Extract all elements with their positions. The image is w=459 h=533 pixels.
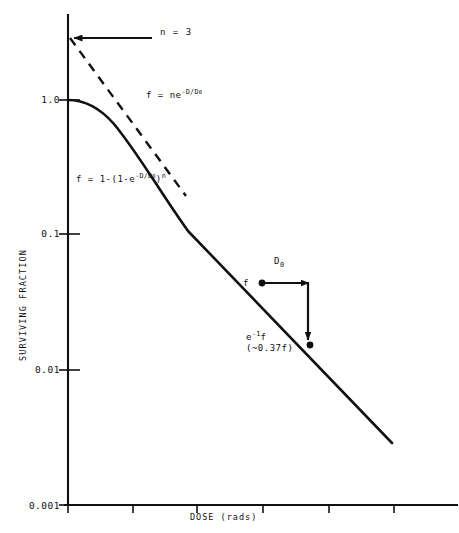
point-e-inverse-f-marker — [307, 342, 314, 349]
e-inv-f-approx: (~0.37f) — [246, 343, 293, 353]
annotation-point-f: f — [243, 278, 249, 289]
mt-eq-exponent: -D/D — [135, 172, 152, 180]
survival-curve-path — [68, 100, 392, 443]
plot-canvas — [0, 0, 459, 533]
exp-eq-lead: f = ne — [146, 90, 182, 100]
mt-eq-lead: f = 1-(1-e — [76, 174, 135, 184]
y-axis-title: SURVIVING FRACTION — [18, 235, 28, 375]
e-inv-f-base-post: f — [261, 332, 267, 342]
e-inv-f-exponent: -1 — [252, 330, 261, 338]
exp-eq-exponent-subscript: 0 — [199, 89, 202, 95]
mt-eq-power-n: n — [162, 172, 166, 180]
y-tick-label-0-001: 0.001 — [10, 500, 60, 512]
annotation-n-equals-3: n = 3 — [160, 27, 192, 38]
annotation-exponential-equation: f = ne-D/D0 — [146, 88, 202, 101]
annotation-multitarget-equation: f = 1-(1-e-D/D0)n — [76, 172, 166, 185]
survival-curve-figure: 1.0 0.1 0.01 0.001 SURVIVING FRACTION DO… — [0, 0, 459, 533]
exp-eq-exponent: -D/D — [182, 88, 199, 96]
annotation-point-e-inverse-f: e-1f (~0.37f) — [246, 330, 293, 355]
y-tick-label-1: 1.0 — [18, 94, 60, 106]
annotation-d0: D0 — [274, 256, 284, 269]
d0-subscript: 0 — [280, 261, 284, 269]
x-axis-title: DOSE (rads) — [190, 512, 257, 523]
